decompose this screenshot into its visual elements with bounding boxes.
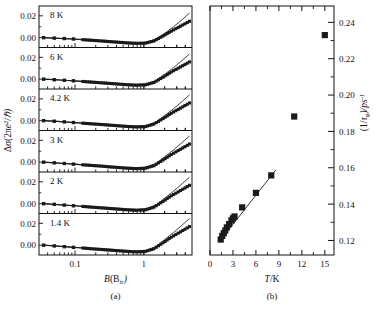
panel-a-ytick-label: 0.02 bbox=[20, 136, 36, 146]
panel-a-data-point bbox=[63, 120, 66, 123]
panel-b-xaxis-label: T/K bbox=[265, 274, 280, 284]
panel-b-xtick-label: 6 bbox=[254, 259, 259, 269]
panel-b-xtick-label: 12 bbox=[297, 259, 306, 269]
panel-a-xtick-label: 0.1 bbox=[69, 259, 80, 269]
panel-a-data-point bbox=[72, 246, 75, 249]
panel-a-data-point bbox=[53, 36, 56, 39]
panel-b-ytick-label: 0.14 bbox=[339, 200, 355, 210]
panel-b-data-point bbox=[239, 204, 245, 210]
panel-a-data-point bbox=[188, 20, 191, 23]
figure-svg: 0.000.028 K0.000.026 K0.000.024.2 K0.000… bbox=[0, 0, 377, 309]
panel-b-ytick-label: 0.20 bbox=[339, 90, 355, 100]
panel-a-ytick-label: 0.00 bbox=[20, 157, 36, 167]
panel-a-data-point bbox=[63, 245, 66, 248]
panel-a-caption: (a) bbox=[111, 291, 121, 301]
panel-b-xtick-label: 15 bbox=[320, 259, 330, 269]
panel-a-data-point bbox=[63, 162, 66, 165]
panel-a-data-point bbox=[188, 101, 191, 104]
panel-b-caption: (b) bbox=[267, 291, 278, 301]
panel-a-data-point bbox=[42, 36, 45, 39]
panel-a-data-point bbox=[53, 244, 56, 247]
panel-a-ytick-label: 0.02 bbox=[20, 11, 36, 21]
panel-a-ytick-label: 0.00 bbox=[20, 240, 36, 250]
panel-a-data-point bbox=[188, 184, 191, 187]
panel-a-data-point bbox=[63, 203, 66, 206]
panel-a-data-point bbox=[53, 203, 56, 206]
panel-b-data-point bbox=[231, 213, 237, 219]
panel-a-ytick-label: 0.02 bbox=[20, 219, 36, 229]
panel-b-ytick-label: 0.16 bbox=[339, 163, 355, 173]
panel-b-data-point bbox=[291, 113, 297, 119]
panel-a-data-point bbox=[42, 77, 45, 80]
panel-b-data-point bbox=[253, 190, 259, 196]
panel-a-data-point bbox=[63, 37, 66, 40]
panel-b-yaxis-label: (1/τφ)/ps-1 bbox=[358, 94, 370, 131]
panel-a-data-point bbox=[188, 142, 191, 145]
panel-b-ytick-label: 0.18 bbox=[339, 127, 355, 137]
panel-b-ytick-label: 0.12 bbox=[339, 236, 355, 246]
panel-a-subpanel-label-0: 8 K bbox=[50, 10, 64, 20]
panel-a-data-point bbox=[72, 162, 75, 165]
panel-a-subpanel-label-4: 2 K bbox=[50, 176, 64, 186]
panel-a-yaxis-label: Δσ(2πe2/ℏ) bbox=[2, 109, 14, 152]
panel-a-ytick-label: 0.02 bbox=[20, 53, 36, 63]
panel-a-subpanel-label-3: 3 K bbox=[50, 135, 64, 145]
panel-a-data-point bbox=[53, 120, 56, 123]
panel-a-data-point bbox=[42, 202, 45, 205]
panel-a-data-point bbox=[188, 225, 191, 228]
panel-a-data-point bbox=[72, 204, 75, 207]
panel-a-ytick-label: 0.00 bbox=[20, 33, 36, 43]
panel-b-xtick-label: 9 bbox=[277, 259, 282, 269]
panel-b-xtick-label: 0 bbox=[208, 259, 213, 269]
panel-b-ytick-label: 0.22 bbox=[339, 54, 355, 64]
panel-a-subpanel-label-1: 6 K bbox=[50, 52, 64, 62]
panel-b-xtick-label: 3 bbox=[231, 259, 236, 269]
panel-b-data-point bbox=[268, 172, 274, 178]
panel-a-data-point bbox=[72, 121, 75, 124]
panel-b-ytick-label: 0.24 bbox=[339, 18, 355, 28]
panel-a-ytick-label: 0.00 bbox=[20, 74, 36, 84]
panel-b-data-point bbox=[322, 32, 328, 38]
panel-a-data-point bbox=[63, 79, 66, 82]
panel-a-xtick-label: 1 bbox=[142, 259, 147, 269]
panel-a-data-point bbox=[72, 79, 75, 82]
panel-a-ytick-label: 0.02 bbox=[20, 177, 36, 187]
panel-a-data-point bbox=[42, 119, 45, 122]
panel-a-data-point bbox=[42, 160, 45, 163]
panel-a-ytick-label: 0.00 bbox=[20, 116, 36, 126]
panel-a-subpanel-label-5: 1.4 K bbox=[50, 218, 71, 228]
figure-container: 0.000.028 K0.000.026 K0.000.024.2 K0.000… bbox=[0, 0, 377, 309]
panel-a-ytick-label: 0.02 bbox=[20, 94, 36, 104]
panel-a-data-point bbox=[42, 243, 45, 246]
panel-a-data-point bbox=[53, 78, 56, 81]
panel-a-ytick-label: 0.00 bbox=[20, 199, 36, 209]
panel-a-data-point bbox=[72, 37, 75, 40]
panel-a-data-point bbox=[53, 161, 56, 164]
panel-a-data-point bbox=[188, 60, 191, 63]
panel-a-xaxis-label: B(Btr) bbox=[104, 274, 127, 285]
panel-a-subpanel-label-2: 4.2 K bbox=[50, 93, 71, 103]
